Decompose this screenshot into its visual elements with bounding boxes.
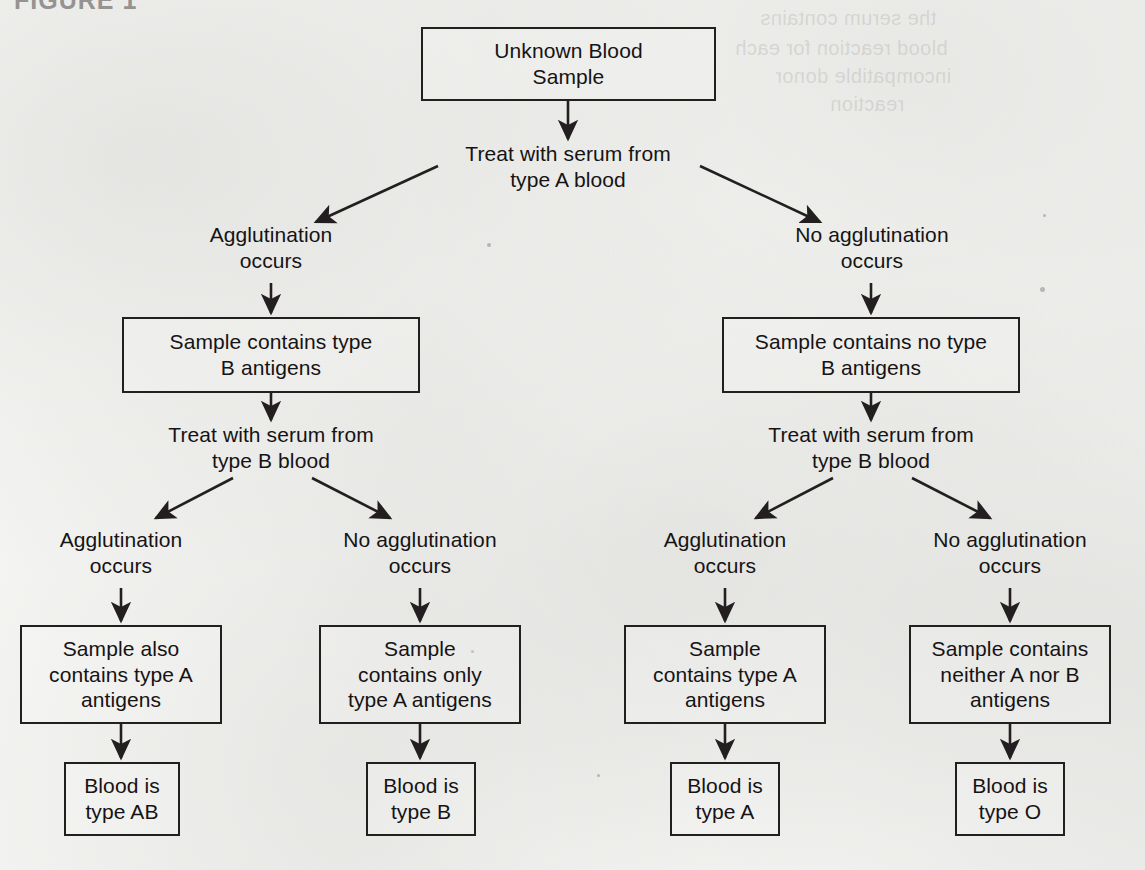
node-sample-contains-neither-a-nor-b-antigens[interactable]: Sample contains neither A nor B antigens [909,625,1111,724]
label-branch-a-no-agglutination-occurs: No agglutination occurs [766,222,978,273]
label-treat-with-type-a-serum: Treat with serum from type A blood [418,141,718,192]
node-blood-is-type-b[interactable]: Blood is type B [366,762,476,836]
node-unknown-blood-sample[interactable]: Unknown Blood Sample [421,27,716,101]
label-branch-b-right-agglutination-occurs: Agglutination occurs [625,527,825,578]
label-branch-a-agglutination-occurs: Agglutination occurs [171,222,371,273]
arrow-testBleft-to-noagg [312,478,390,518]
label-branch-b-right-no-agglutination-occurs: No agglutination occurs [904,527,1116,578]
arrow-testBleft-to-agg [156,478,233,518]
figure-page: FIGURE 1 the serum contains blood reacti… [0,0,1145,870]
node-blood-is-type-o[interactable]: Blood is type O [955,762,1065,836]
node-sample-also-contains-type-a-antigens[interactable]: Sample also contains type A antigens [20,625,222,724]
node-sample-contains-no-type-b-antigens[interactable]: Sample contains no type B antigens [722,317,1020,393]
arrow-testBright-to-noagg [912,478,990,518]
node-blood-is-type-ab[interactable]: Blood is type AB [64,762,180,836]
label-branch-b-left-agglutination-occurs: Agglutination occurs [21,527,221,578]
label-treat-with-type-b-serum-right: Treat with serum from type B blood [721,422,1021,473]
node-sample-contains-type-b-antigens[interactable]: Sample contains type B antigens [122,317,420,393]
node-blood-is-type-a[interactable]: Blood is type A [670,762,780,836]
node-sample-contains-only-type-a-antigens[interactable]: Sample contains only type A antigens [319,625,521,724]
node-sample-contains-type-a-antigens[interactable]: Sample contains type A antigens [624,625,826,724]
label-treat-with-type-b-serum-left: Treat with serum from type B blood [121,422,421,473]
label-branch-b-left-no-agglutination-occurs: No agglutination occurs [314,527,526,578]
arrow-testA-to-right [700,166,820,222]
arrow-testBright-to-agg [756,478,833,518]
